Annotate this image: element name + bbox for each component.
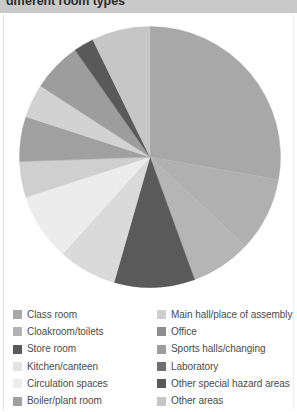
figure-panel: Class roomCloakroom/toiletsStore roomKit… xyxy=(3,14,294,410)
legend-item: Kitchen/canteen xyxy=(13,358,153,375)
legend-column-right: Main hall/place of assemblyOfficeSports … xyxy=(157,306,297,410)
legend-label: Boiler/plant room xyxy=(27,396,102,406)
legend-item: Other special hazard areas xyxy=(157,375,297,392)
legend-item: Main hall/place of assembly xyxy=(157,306,297,323)
legend-item: Other areas xyxy=(157,392,297,409)
legend-label: Other areas xyxy=(171,396,223,406)
legend-item: Boiler/plant room xyxy=(13,392,153,409)
legend-swatch xyxy=(157,327,166,336)
legend-swatch xyxy=(157,310,166,319)
legend-label: Sports halls/changing xyxy=(171,344,266,354)
pie-chart xyxy=(19,26,281,288)
legend-item: Circulation spaces xyxy=(13,375,153,392)
legend-label: Cloakroom/toilets xyxy=(27,327,103,337)
legend-label: Store room xyxy=(27,344,76,354)
legend-swatch xyxy=(157,362,166,371)
pie-slice xyxy=(150,27,281,180)
legend-swatch xyxy=(13,397,22,406)
legend-label: Class room xyxy=(27,310,77,320)
legend-swatch xyxy=(157,379,166,388)
legend-swatch xyxy=(13,362,22,371)
legend-item: Laboratory xyxy=(157,358,297,375)
legend-swatch xyxy=(157,397,166,406)
pie-chart-svg xyxy=(19,26,281,288)
legend-swatch xyxy=(13,379,22,388)
legend-swatch xyxy=(13,327,22,336)
legend-label: Other special hazard areas xyxy=(171,379,290,389)
legend-label: Main hall/place of assembly xyxy=(171,310,293,320)
legend-item: Office xyxy=(157,323,297,340)
page-title: different room types xyxy=(6,0,125,8)
legend-label: Kitchen/canteen xyxy=(27,362,98,372)
legend-item: Sports halls/changing xyxy=(157,341,297,358)
legend-label: Laboratory xyxy=(171,362,218,372)
legend-swatch xyxy=(13,310,22,319)
legend-column-left: Class roomCloakroom/toiletsStore roomKit… xyxy=(13,306,153,410)
pie-slice-group xyxy=(20,27,281,288)
legend-item: Class room xyxy=(13,306,153,323)
title-bar: different room types xyxy=(0,0,297,13)
chart-legend: Class roomCloakroom/toiletsStore roomKit… xyxy=(4,306,295,410)
legend-item: Store room xyxy=(13,341,153,358)
legend-swatch xyxy=(157,345,166,354)
legend-label: Circulation spaces xyxy=(27,379,108,389)
legend-label: Office xyxy=(171,327,197,337)
legend-swatch xyxy=(13,345,22,354)
legend-item: Cloakroom/toilets xyxy=(13,323,153,340)
